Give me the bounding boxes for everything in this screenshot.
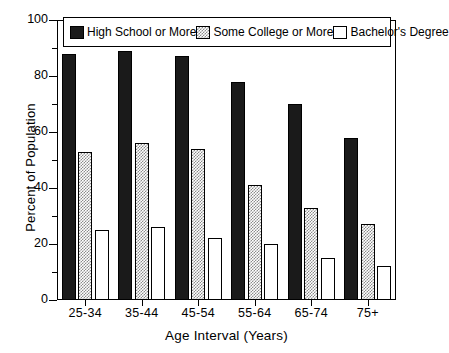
bar-55-64-series-2 <box>264 244 278 300</box>
legend-item-bachelors: Bachelor's Degree <box>333 25 448 39</box>
legend-label-series-2: Bachelor's Degree <box>350 25 448 39</box>
y-tick-label: 0 <box>0 292 48 306</box>
y-tick-label: 100 <box>0 12 48 26</box>
bars-layer <box>57 20 396 300</box>
legend-swatch-icon-series-1 <box>196 26 210 39</box>
y-tick-major <box>49 76 57 77</box>
legend-label-series-1: Some College or More <box>213 25 333 39</box>
y-tick-label: 60 <box>0 124 48 138</box>
bar-25-34-series-0 <box>62 54 76 300</box>
bar-65-74-series-2 <box>321 258 335 300</box>
bar-55-64-series-1 <box>248 185 262 300</box>
y-tick-label: 20 <box>0 236 48 250</box>
y-tick-label: 80 <box>0 68 48 82</box>
bar-25-34-series-2 <box>95 230 109 300</box>
y-tick-major <box>49 20 57 21</box>
y-tick-label: 40 <box>0 180 48 194</box>
legend-label-series-0: High School or More <box>87 25 196 39</box>
bar-55-64-series-0 <box>231 82 245 300</box>
bar-75plus-series-2 <box>377 266 391 300</box>
y-tick-major <box>49 300 57 301</box>
bar-45-54-series-0 <box>175 56 189 300</box>
bar-25-34-series-1 <box>78 152 92 300</box>
legend-item-some-college: Some College or More <box>196 25 333 39</box>
legend-swatch-icon-series-2 <box>333 26 347 39</box>
legend-item-high-school: High School or More <box>70 25 196 39</box>
legend-swatch-icon-series-0 <box>70 26 84 39</box>
bar-45-54-series-2 <box>208 238 222 300</box>
x-tick-label: 75+ <box>328 306 408 320</box>
y-tick-major <box>49 132 57 133</box>
bar-35-44-series-2 <box>151 227 165 300</box>
bar-45-54-series-1 <box>191 149 205 300</box>
y-tick-major <box>49 244 57 245</box>
bar-65-74-series-1 <box>304 208 318 300</box>
chart-legend: High School or More Some College or More… <box>63 17 391 47</box>
bar-35-44-series-0 <box>118 51 132 300</box>
bar-65-74-series-0 <box>288 104 302 300</box>
bar-35-44-series-1 <box>135 143 149 300</box>
bar-75plus-series-1 <box>361 224 375 300</box>
x-axis-title: Age Interval (Years) <box>57 328 396 343</box>
y-tick-major <box>49 188 57 189</box>
bar-75plus-series-0 <box>344 138 358 300</box>
